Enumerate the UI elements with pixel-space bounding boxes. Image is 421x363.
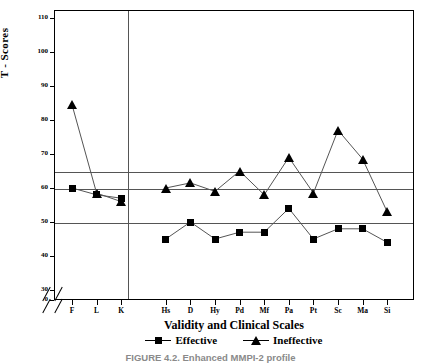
x-tick-mark-Pa xyxy=(289,300,290,305)
x-tick-mark-Ma xyxy=(363,300,364,305)
triangle-marker-icon xyxy=(243,335,269,345)
legend-item-ineffective: Ineffective xyxy=(243,334,322,346)
x-tick-mark-K xyxy=(121,300,122,305)
y-tick-label-100: 100 xyxy=(20,48,48,55)
y-tick-mark-40 xyxy=(50,256,54,257)
x-tick-mark-L xyxy=(97,300,98,305)
reference-line-60 xyxy=(55,189,413,190)
y-tick-label-50: 50 xyxy=(20,218,48,225)
data-point-effective-Sc xyxy=(335,225,342,232)
x-tick-mark-Sc xyxy=(338,300,339,305)
reference-line-50 xyxy=(55,223,413,224)
x-tick-mark-Pd xyxy=(240,300,241,305)
y-tick-label-90: 90 xyxy=(20,82,48,89)
data-point-ineffective-Ma xyxy=(358,155,368,164)
y-tick-mark-90 xyxy=(50,86,54,87)
data-point-effective-F xyxy=(69,185,76,192)
y-tick-label-40: 40 xyxy=(20,252,48,259)
x-tick-mark-Si xyxy=(387,300,388,305)
x-tick-mark-D xyxy=(190,300,191,305)
data-point-ineffective-D xyxy=(185,178,195,187)
data-point-ineffective-Sc xyxy=(333,126,343,135)
data-point-ineffective-Mf xyxy=(259,190,269,199)
y-tick-mark-70 xyxy=(50,154,54,155)
data-point-effective-D xyxy=(187,219,194,226)
y-tick-mark-100 xyxy=(50,52,54,53)
data-point-effective-Hs xyxy=(162,236,169,243)
y-tick-mark-50 xyxy=(50,222,54,223)
x-axis-title: Validity and Clinical Scales xyxy=(54,318,414,333)
y-tick-label-30: 30 xyxy=(20,286,48,293)
data-point-ineffective-Pd xyxy=(235,167,245,176)
data-point-ineffective-F xyxy=(67,100,77,109)
data-point-effective-Pd xyxy=(236,229,243,236)
figure-caption: FIGURE 4.2. Enhanced MMPI-2 profile xyxy=(0,352,421,363)
y-tick-label-110: 110 xyxy=(20,14,48,21)
x-tick-mark-Pt xyxy=(313,300,314,305)
x-tick-mark-F xyxy=(72,300,73,305)
x-tick-label-K: K xyxy=(103,306,139,315)
legend-label-effective: Effective xyxy=(175,334,217,346)
data-point-effective-Hy xyxy=(212,236,219,243)
data-point-effective-Pa xyxy=(285,205,292,212)
y-tick-mark-60 xyxy=(50,188,54,189)
data-point-ineffective-L xyxy=(92,189,102,198)
data-point-effective-Si xyxy=(384,239,391,246)
data-point-ineffective-Pa xyxy=(284,153,294,162)
legend-item-effective: Effective xyxy=(145,334,217,346)
x-tick-label-Si: Si xyxy=(369,306,405,315)
data-point-effective-Mf xyxy=(261,229,268,236)
chart-legend: Effective Ineffective xyxy=(54,334,414,346)
data-point-effective-Pt xyxy=(310,236,317,243)
y-tick-mark-110 xyxy=(50,18,54,19)
square-marker-icon xyxy=(145,335,171,345)
y-tick-mark-80 xyxy=(50,120,54,121)
data-point-ineffective-Hy xyxy=(210,187,220,196)
x-tick-mark-Hy xyxy=(215,300,216,305)
y-tick-mark-30 xyxy=(50,290,54,291)
y-tick-label-80: 80 xyxy=(20,116,48,123)
validity-clinical-divider xyxy=(128,11,129,299)
data-point-ineffective-Hs xyxy=(161,184,171,193)
data-point-effective-Ma xyxy=(359,225,366,232)
x-tick-mark-Hs xyxy=(166,300,167,305)
data-point-ineffective-Pt xyxy=(308,189,318,198)
x-tick-mark-Mf xyxy=(264,300,265,305)
data-point-ineffective-Si xyxy=(382,207,392,216)
y-tick-label-60: 60 xyxy=(20,184,48,191)
legend-label-ineffective: Ineffective xyxy=(273,334,322,346)
data-point-ineffective-K xyxy=(116,197,126,206)
y-axis-title: T - Scores xyxy=(0,0,10,118)
y-tick-label-70: 70 xyxy=(20,150,48,157)
